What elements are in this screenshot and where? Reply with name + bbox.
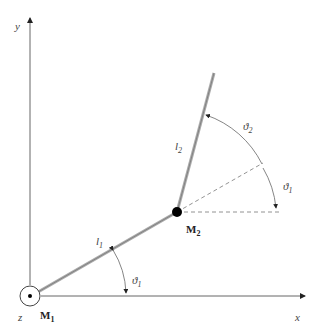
theta1-base-arc <box>113 250 126 293</box>
m2-label: M2 <box>186 223 200 238</box>
base-joint-dot <box>28 294 32 298</box>
theta1-upper-arc <box>263 168 276 208</box>
z-axis-label: z <box>18 311 22 323</box>
l1-label: l1 <box>96 235 103 250</box>
theta2-arc <box>206 115 262 164</box>
dashed-extension <box>177 163 263 212</box>
y-axis-label: y <box>15 20 20 32</box>
l2-label: l2 <box>175 140 182 155</box>
elbow-joint <box>172 207 182 217</box>
theta2-label: ϑ2 <box>243 120 252 135</box>
x-axis-label: x <box>295 311 300 323</box>
robot-arm-diagram: y x z M1 M2 l1 l2 ϑ1 ϑ1 ϑ2 <box>0 0 320 333</box>
theta1-upper-label: ϑ1 <box>283 180 292 195</box>
theta1-base-label: ϑ1 <box>132 274 141 289</box>
m1-label: M1 <box>40 309 54 324</box>
diagram-svg <box>0 0 320 333</box>
